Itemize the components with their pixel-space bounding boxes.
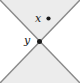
- x-point-dot: [46, 16, 50, 20]
- y-point-dot: [37, 39, 42, 44]
- double-cone-figure: x y: [0, 0, 80, 83]
- x-point-label: x: [35, 13, 41, 24]
- y-point-label: y: [24, 35, 30, 46]
